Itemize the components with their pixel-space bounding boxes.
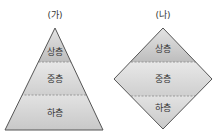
pyramid-label-lower: 하층 <box>47 108 63 118</box>
diamond-label-lower: 하층 <box>155 103 171 113</box>
pyramid-caption: (가) <box>47 10 62 20</box>
diamond-label-upper: 상층 <box>155 44 171 54</box>
social-structure-diagram: (가) 상층 중층 하층 (나) 상층 중층 하층 <box>0 0 223 139</box>
pyramid-label-upper: 상층 <box>47 47 63 57</box>
diamond-layer-bottom <box>110 96 220 130</box>
pyramid-diagram: (가) 상층 중층 하층 <box>0 10 112 130</box>
diamond-diagram: (나) 상층 중층 하층 <box>110 10 220 130</box>
pyramid-label-middle: 중층 <box>47 74 63 84</box>
diamond-caption: (나) <box>155 10 170 20</box>
diamond-label-middle: 중층 <box>155 74 171 84</box>
